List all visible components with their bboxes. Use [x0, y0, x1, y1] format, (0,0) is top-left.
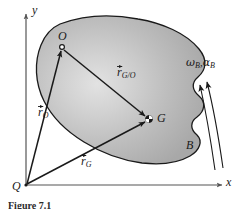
omega-symbol: ω: [186, 56, 195, 69]
origin-label-Q: Q: [12, 180, 21, 192]
rotation-label: ωB,αB: [186, 53, 215, 69]
alpha-subscript: B: [210, 61, 215, 70]
y-axis-label: y: [32, 4, 37, 16]
point-label-O: O: [58, 30, 67, 42]
figure-canvas: [0, 0, 241, 209]
vector-sub-r-O: O: [43, 111, 49, 120]
omega-subscript: B: [195, 61, 200, 70]
figure-container: y x Q O G B r O r G r G/O: [0, 0, 241, 209]
point-marker-O: [60, 45, 65, 50]
alpha-symbol: α: [203, 56, 210, 69]
vector-label-r-G-over-O: r G/O: [117, 66, 135, 78]
overbar-arrow-icon: [81, 153, 88, 158]
vector-sub-r-G-over-O: G/O: [122, 71, 136, 80]
vector-sub-r-G: G: [86, 160, 92, 169]
vector-label-r-O: r O: [38, 106, 48, 118]
vector-overbar-r-G: r: [81, 155, 86, 167]
overbar-arrow-icon: [38, 104, 45, 109]
point-marker-Q: [24, 183, 27, 186]
figure-caption: Figure 7.1: [8, 200, 51, 209]
rotation-arc-outer: [207, 82, 223, 168]
x-axis-label: x: [226, 176, 231, 188]
point-label-G: G: [157, 112, 166, 124]
rotation-arc-inner: [200, 85, 215, 170]
vector-overbar-r-O: r: [38, 106, 43, 118]
body-label-B: B: [186, 139, 193, 151]
point-marker-G: [146, 116, 153, 123]
vector-overbar-r-G-over-O: r: [117, 66, 122, 78]
overbar-arrow-icon: [117, 64, 124, 69]
vector-label-r-G: r G: [81, 155, 91, 167]
